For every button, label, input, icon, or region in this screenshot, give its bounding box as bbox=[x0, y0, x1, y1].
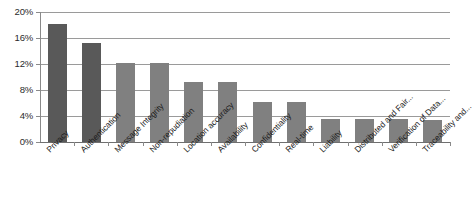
y-axis-tick-label: 4% bbox=[20, 111, 33, 121]
y-axis-tick-label: 16% bbox=[15, 33, 33, 43]
y-axis-tick-label: 8% bbox=[20, 85, 33, 95]
y-axis-tick-label: 20% bbox=[15, 7, 33, 17]
y-axis-tick-label: 12% bbox=[15, 59, 33, 69]
x-axis-labels: PrivacyAuthenticationMessage IntegrityNo… bbox=[0, 142, 461, 217]
bar bbox=[48, 24, 67, 142]
